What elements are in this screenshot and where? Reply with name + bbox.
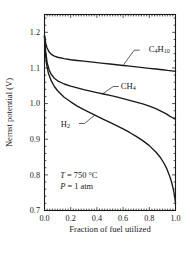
annotation-temperature: T = 750 °C <box>60 171 98 180</box>
annotation-pressure: P = 1 atm <box>59 182 93 191</box>
y-tick-label: 1.1 <box>30 64 40 73</box>
y-tick-label: 0.8 <box>30 171 40 180</box>
series-label-h2: H2 <box>61 119 70 129</box>
series-label-ch4: CH4 <box>121 81 136 91</box>
y-tick-label: 1.2 <box>30 28 40 37</box>
chart-canvas: 0.00.20.40.60.81.0Fraction of fuel utili… <box>0 0 190 256</box>
leader-h2 <box>79 115 95 124</box>
x-tick-label: 0.4 <box>92 214 102 223</box>
leader-c4h10 <box>123 50 140 65</box>
x-tick-label: 0.0 <box>39 214 49 223</box>
x-tick-label: 1.0 <box>170 214 180 223</box>
x-tick-label: 0.8 <box>144 214 154 223</box>
x-tick-label: 0.2 <box>66 214 76 223</box>
y-tick-label: 0.7 <box>30 206 40 215</box>
x-tick-label: 0.6 <box>118 214 128 223</box>
plot-frame <box>45 15 176 211</box>
y-tick-label: 0.9 <box>30 135 40 144</box>
nernst-potential-chart-figure: 0.00.20.40.60.81.0Fraction of fuel utili… <box>0 0 190 256</box>
series-label-c4h10: C4H10 <box>149 44 170 54</box>
y-axis-title: Nernst potential (V) <box>4 78 14 147</box>
leader-ch4 <box>103 86 119 93</box>
y-tick-label: 1.0 <box>30 99 40 108</box>
x-axis-title: Fraction of fuel utilized <box>69 224 151 234</box>
